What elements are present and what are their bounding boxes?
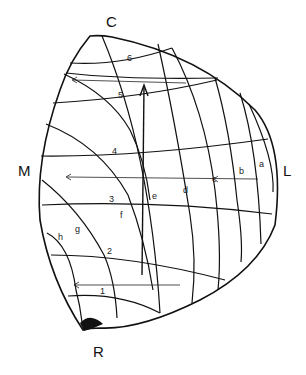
- label-5: 5: [118, 90, 123, 100]
- label-d: d: [183, 185, 188, 195]
- label-left-M: M: [18, 162, 31, 179]
- label-bottom-R: R: [93, 343, 104, 360]
- curve-upper: [66, 73, 218, 78]
- curve-g-upper: [46, 124, 153, 290]
- curve-1: [68, 295, 160, 313]
- curve-g: [42, 180, 117, 318]
- label-f: f: [120, 210, 123, 220]
- label-h: h: [58, 232, 63, 242]
- grid-diagram: C M L R 1 2 3 4 5 6 a b c d e f g h: [0, 0, 306, 375]
- label-right-L: L: [283, 162, 291, 179]
- diagram-canvas: C M L R 1 2 3 4 5 6 a b c d e f g h: [0, 0, 306, 375]
- label-c: c: [212, 174, 217, 184]
- curve-6: [70, 48, 172, 63]
- label-top-C: C: [106, 13, 117, 30]
- label-1: 1: [100, 286, 105, 296]
- label-a: a: [259, 159, 264, 169]
- curve-5: [53, 80, 217, 103]
- label-6: 6: [127, 53, 132, 63]
- arrow-line-row-bc: [67, 177, 258, 179]
- curve-2: [51, 255, 225, 280]
- curve-h: [47, 233, 82, 322]
- label-2: 2: [107, 246, 112, 256]
- label-3: 3: [109, 194, 114, 204]
- label-b: b: [239, 166, 244, 176]
- arrow-line-row-5: [73, 80, 186, 83]
- label-4: 4: [112, 146, 117, 156]
- label-e: e: [152, 191, 157, 201]
- curve-outer-left: [64, 74, 150, 200]
- label-g: g: [75, 224, 80, 234]
- curve-4: [41, 139, 268, 156]
